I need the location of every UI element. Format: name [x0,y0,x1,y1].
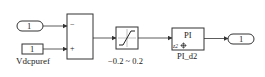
constant-value: 1 [30,44,34,54]
pi-block-name[interactable]: PI_d2 [177,51,197,61]
pi-port-label: z2 [173,41,178,51]
inport-number: 1 [27,21,31,31]
sum-sign-plus: + [70,44,75,54]
constant-name[interactable]: Vdcpuref [16,56,50,66]
pi-block-title: PI [184,30,192,40]
sum-sign-minus: − [70,20,75,30]
outport-number: 1 [239,34,243,44]
saturation-range-label[interactable]: −0.2 ~ 0.2 [108,56,143,66]
